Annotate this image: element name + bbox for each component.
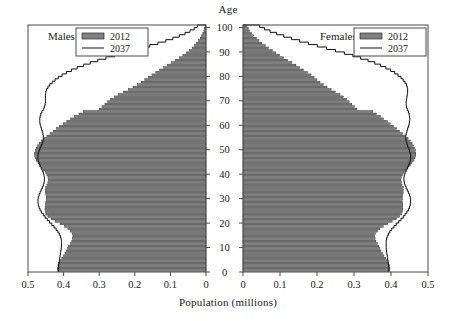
pyramid-bar	[243, 182, 401, 184]
pyramid-bar	[243, 79, 317, 81]
pyramid-plot-area: 0.50.40.30.20.10Males 00.10.20.30.40.5Fe…	[0, 0, 456, 321]
pyramid-bar	[73, 238, 207, 240]
pyramid-bar	[192, 47, 206, 49]
pyramid-bar	[111, 98, 206, 100]
pyramid-bar	[202, 35, 206, 37]
pyramid-bar	[243, 226, 383, 228]
pyramid-bar	[243, 64, 296, 66]
pyramid-bar	[243, 111, 373, 113]
pyramid-bar	[243, 172, 404, 174]
pyramid-bar	[243, 196, 402, 198]
pyramid-bar	[243, 69, 304, 71]
x-tick-label: 0	[203, 279, 208, 290]
pyramid-bar	[99, 108, 206, 110]
pyramid-bar	[243, 54, 280, 56]
x-tick-label: 0	[240, 279, 245, 290]
x-tick-label: 0.4	[57, 279, 71, 290]
pyramid-bar	[243, 208, 403, 210]
pyramid-bar	[243, 243, 377, 245]
pyramid-bar	[45, 204, 206, 206]
pyramid-bar	[243, 174, 402, 176]
pyramid-bar	[48, 182, 206, 184]
pyramid-bar	[45, 208, 206, 210]
x-tick-label: 0.5	[421, 279, 434, 290]
pyramid-bar	[243, 167, 408, 169]
pyramid-bar	[243, 162, 412, 164]
pyramid-bar	[38, 145, 206, 147]
pyramid-bar	[243, 230, 377, 232]
pyramid-bar	[243, 71, 307, 73]
pyramid-bar	[243, 262, 389, 264]
pyramid-bar	[243, 160, 414, 162]
x-tick-label: 0.5	[21, 279, 34, 290]
legend-right: 20122037	[354, 28, 426, 56]
pyramid-bar	[60, 223, 206, 225]
pyramid-bar	[243, 35, 254, 37]
pyramid-bar	[243, 59, 288, 61]
pyramid-bar	[243, 257, 386, 259]
legend-label-2012: 2012	[388, 31, 408, 42]
legend-label-2037: 2037	[388, 43, 408, 54]
pyramid-bar	[46, 196, 206, 198]
pyramid-bar	[65, 252, 206, 254]
pyramid-bar	[79, 113, 206, 115]
pyramid-bar	[38, 162, 206, 164]
pyramid-bar	[243, 213, 402, 215]
pyramid-bar	[243, 30, 250, 32]
pyramid-bar	[65, 226, 206, 228]
pyramid-bar	[48, 177, 206, 179]
pyramid-bar	[45, 191, 206, 193]
age-tick-label: 30	[219, 193, 230, 204]
pyramid-bar	[46, 186, 206, 188]
pyramid-bar	[243, 32, 252, 34]
pyramid-bar	[243, 270, 390, 272]
pyramid-bar	[243, 189, 404, 191]
pyramid-bar	[44, 169, 206, 171]
pyramid-bar	[243, 125, 394, 127]
pyramid-bar	[171, 62, 206, 64]
pyramid-bar	[243, 86, 327, 88]
pyramid-bar	[243, 221, 392, 223]
pyramid-bar	[243, 218, 396, 220]
pyramid-bar	[35, 150, 206, 152]
pyramid-bar	[48, 179, 206, 181]
pyramid-bar	[243, 248, 380, 250]
pyramid-bar	[243, 223, 388, 225]
pyramid-bar	[243, 81, 320, 83]
pyramid-bar	[45, 206, 206, 208]
pyramid-bar	[47, 135, 206, 137]
pyramid-bar	[53, 130, 206, 132]
pyramid-bar	[70, 243, 206, 245]
pyramid-bar	[40, 164, 206, 166]
age-tick-label: 10	[219, 242, 230, 253]
pyramid-bar	[108, 101, 206, 103]
pyramid-bar	[62, 257, 206, 259]
pyramid-bar	[243, 130, 400, 132]
males-panel: 0.50.40.30.20.10Males	[21, 25, 208, 290]
pyramid-bar	[243, 101, 349, 103]
x-tick-label: 0.1	[273, 279, 286, 290]
pyramid-bar	[243, 199, 402, 201]
pyramid-bar	[35, 155, 206, 157]
pyramid-bar	[39, 142, 206, 144]
pyramid-bar	[243, 89, 331, 91]
legend-swatch-bar	[82, 33, 104, 39]
pyramid-bar	[45, 189, 206, 191]
bar-series-2012	[35, 25, 206, 271]
pyramid-bar	[243, 238, 375, 240]
pyramid-bar	[123, 91, 206, 93]
pyramid-bar	[243, 128, 397, 130]
pyramid-bar	[42, 140, 206, 142]
pyramid-bar	[55, 221, 206, 223]
pyramid-bar	[243, 115, 380, 117]
pyramid-bar	[160, 69, 206, 71]
age-tick-label: 100	[217, 22, 233, 33]
pyramid-bar	[64, 255, 206, 257]
pyramid-bar	[179, 57, 206, 59]
pyramid-bar	[164, 67, 206, 69]
pyramid-bar	[137, 84, 206, 86]
age-tick-label: 40	[219, 169, 230, 180]
pyramid-bar	[35, 152, 206, 154]
pyramid-bar	[118, 93, 206, 95]
pyramid-bar	[128, 89, 206, 91]
